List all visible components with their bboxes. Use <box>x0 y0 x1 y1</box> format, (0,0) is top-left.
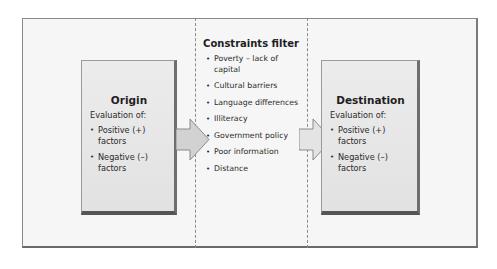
origin-box: Origin Evaluation of: Positive (+) facto… <box>81 60 177 215</box>
constraint-item: Poor information <box>206 147 306 158</box>
destination-box: Destination Evaluation of: Positive (+) … <box>321 60 420 215</box>
constraints-filter: Constraints filter Poverty – lack of cap… <box>196 38 306 180</box>
destination-title: Destination <box>330 94 411 106</box>
constraint-item: Illiteracy <box>206 114 306 125</box>
constraint-item: Poverty – lack of capital <box>206 54 306 75</box>
origin-subtitle: Evaluation of: <box>90 110 168 120</box>
constraint-item: Distance <box>206 164 306 175</box>
destination-factor-negative: Negative (–) factors <box>330 152 411 174</box>
origin-factor-list: Positive (+) factors Negative (–) factor… <box>90 125 168 174</box>
origin-factor-negative: Negative (–) factors <box>90 152 168 174</box>
origin-title: Origin <box>90 94 168 106</box>
constraint-item: Language differences <box>206 98 306 109</box>
constraints-list: Poverty – lack of capital Cultural barri… <box>196 54 306 174</box>
origin-factor-positive: Positive (+) factors <box>90 125 168 147</box>
destination-factor-list: Positive (+) factors Negative (–) factor… <box>330 125 411 174</box>
destination-subtitle: Evaluation of: <box>330 110 411 120</box>
destination-factor-positive: Positive (+) factors <box>330 125 411 147</box>
constraint-item: Cultural barriers <box>206 81 306 92</box>
constraint-item: Government policy <box>206 131 306 142</box>
constraints-title: Constraints filter <box>196 38 306 50</box>
